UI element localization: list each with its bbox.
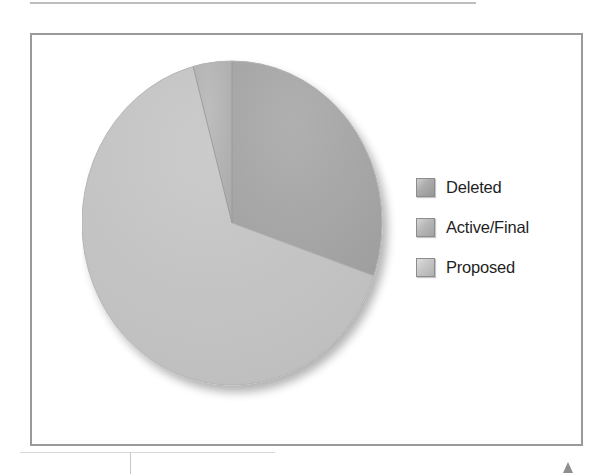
screenshot-canvas: Deleted Active/Final Proposed	[0, 0, 606, 474]
legend-swatch-active-final	[416, 218, 435, 237]
pie-chart	[82, 53, 412, 413]
legend-label-active-final: Active/Final	[446, 218, 529, 237]
plot-area: Deleted Active/Final Proposed	[32, 35, 585, 448]
legend-item-deleted[interactable]: Deleted	[416, 167, 576, 207]
chart-frame: Deleted Active/Final Proposed	[30, 33, 583, 446]
page-corner-mark	[563, 462, 573, 473]
chart-legend: Deleted Active/Final Proposed	[416, 167, 576, 287]
legend-label-deleted: Deleted	[446, 178, 501, 197]
legend-swatch-deleted	[416, 178, 435, 197]
legend-label-proposed: Proposed	[446, 258, 515, 277]
legend-item-proposed[interactable]: Proposed	[416, 247, 576, 287]
legend-swatch-proposed	[416, 258, 435, 277]
page-left-tick	[130, 452, 131, 474]
page-bottom-rule	[20, 452, 275, 453]
page-top-rule	[30, 2, 476, 4]
legend-item-active-final[interactable]: Active/Final	[416, 207, 576, 247]
